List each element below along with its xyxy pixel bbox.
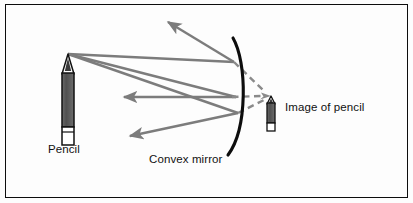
figure-root: Pencil Image of pencil Convex mirror (0, 0, 413, 203)
pencil-body (62, 73, 74, 127)
label-image-of-pencil: Image of pencil (285, 101, 365, 113)
reflected-ray-1 (168, 22, 234, 62)
incident-ray-3 (68, 54, 238, 113)
incident-rays (68, 54, 238, 113)
image-pencil-eraser (267, 123, 275, 131)
label-pencil: Pencil (48, 143, 80, 155)
reflected-ray-3 (130, 113, 238, 136)
virtual-ray-2 (232, 96, 261, 97)
label-convex-mirror: Convex mirror (149, 153, 223, 165)
pencil-object (62, 54, 74, 145)
virtual-ray-1 (234, 62, 265, 92)
image-pencil-body (267, 103, 275, 123)
image-pencil (267, 96, 275, 131)
virtual-rays (232, 62, 265, 113)
